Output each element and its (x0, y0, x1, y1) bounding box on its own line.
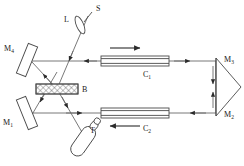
cell-C1[interactable] (101, 56, 169, 66)
label-beamsplitter-B: B (82, 85, 87, 94)
label-source-S: S (96, 4, 100, 13)
source-S[interactable] (84, 12, 92, 22)
label-lens-L: L (64, 15, 69, 24)
label-detector-T: T (90, 126, 95, 135)
label-mirror-M2: M2 (224, 110, 234, 120)
beam-splitter-to-detector (57, 89, 83, 134)
label-mirror-M1: M1 (3, 118, 13, 128)
beamsplitter-B[interactable] (36, 84, 78, 94)
prism-retroreflector[interactable] (216, 58, 241, 116)
label-mirror-M3: M3 (224, 55, 234, 65)
detector-T[interactable] (68, 115, 105, 159)
interferometer-diagram: S L B T M4 M1 M3 M2 C1 C2 (0, 0, 244, 166)
label-cell-C2: C2 (143, 124, 151, 134)
beam-m1-diagonal (30, 72, 57, 118)
label-mirror-M4: M4 (4, 44, 14, 54)
cell-C2[interactable] (101, 108, 169, 118)
diagram-canvas: S L B T M4 M1 M3 M2 C1 C2 (0, 0, 244, 166)
lens-L[interactable] (73, 15, 87, 35)
mirror-M4[interactable] (16, 43, 37, 76)
label-cell-C1: C1 (143, 70, 151, 80)
